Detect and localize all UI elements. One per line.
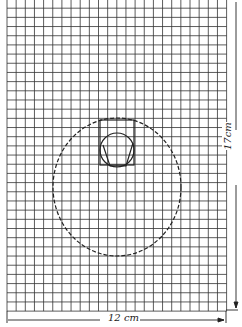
grid-diagram [0, 0, 242, 327]
grid-lines [7, 0, 227, 311]
height-dimension [226, 2, 238, 310]
height-label: 17cm [222, 122, 233, 150]
width-label: 12 cm [108, 312, 139, 323]
